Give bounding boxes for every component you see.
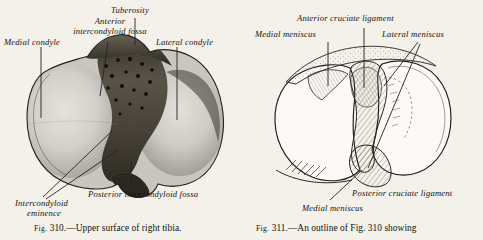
figure-310: Medial condyle Anterior intercondyloid f…	[0, 0, 242, 240]
caption-figure-311-text: —An outline of Fig. 310 showing	[288, 223, 417, 233]
caption-figure-311: Fig. 311.—An outline of Fig. 310 showing	[256, 223, 417, 234]
caption-figure-311-prefix: Fig.	[256, 224, 269, 233]
label-intercondyloid-eminence-line2: eminence	[15, 209, 68, 219]
caption-figure-311-number: 311.	[272, 223, 288, 233]
label-posterior-intercondyloid-fossa: Posterior intercondyloid fossa	[88, 190, 198, 200]
figure-311: Anterior cruciate ligament Medial menisc…	[242, 0, 483, 240]
label-medial-condyle: Medial condyle	[4, 38, 60, 48]
label-medial-meniscus-bottom: Medial meniscus	[302, 204, 363, 214]
label-medial-meniscus-top: Medial meniscus	[255, 30, 316, 40]
caption-figure-310-number: 310.	[50, 223, 67, 233]
label-intercondyloid-eminence: Intercondyloid eminence	[15, 199, 68, 218]
label-anterior-cruciate-ligament: Anterior cruciate ligament	[297, 14, 394, 24]
label-anterior-intercondyloid-fossa: Anterior intercondyloid fossa	[60, 17, 160, 36]
textbook-page: Medial condyle Anterior intercondyloid f…	[0, 0, 483, 240]
label-anterior-intercondyloid-fossa-line2: intercondyloid fossa	[60, 27, 160, 37]
caption-figure-310-prefix: Fig.	[34, 224, 47, 233]
caption-figure-310: Fig. 310.—Upper surface of right tibia.	[34, 223, 182, 234]
label-lateral-meniscus: Lateral meniscus	[382, 30, 444, 40]
label-posterior-cruciate-ligament: Posterior cruciate ligament	[352, 189, 452, 199]
caption-figure-310-text: —Upper surface of right tibia.	[66, 223, 181, 233]
label-lateral-condyle: Lateral condyle	[156, 38, 213, 48]
label-tuberosity: Tuberosity	[111, 6, 149, 16]
